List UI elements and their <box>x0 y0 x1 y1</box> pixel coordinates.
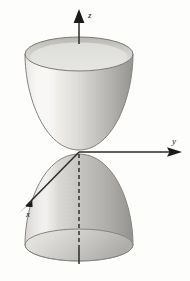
x-axis-label: x <box>26 210 30 219</box>
math-figure-hyperboloid: z y x <box>0 0 190 281</box>
y-axis-label: y <box>172 137 176 146</box>
hyperboloid-illustration <box>0 0 190 281</box>
z-axis-arrowhead <box>74 9 85 23</box>
lower-sheet-group <box>25 154 133 261</box>
upper-sheet-group <box>25 37 133 154</box>
z-axis-label: z <box>88 11 92 20</box>
